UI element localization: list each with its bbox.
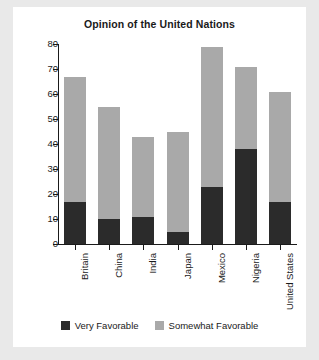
y-tick: 70 [13, 69, 58, 70]
x-tick-mark [246, 245, 247, 250]
x-tick-mark [143, 245, 144, 250]
y-tick: 40 [13, 144, 58, 145]
bar-segment-somewhat-favorable [201, 47, 223, 187]
y-tick: 80 [13, 44, 58, 45]
bar-segment-somewhat-favorable [235, 67, 257, 150]
plot-area: 01020304050607080 BritainChinaIndiaJapan… [13, 7, 306, 347]
x-label-japan: Japan [182, 253, 193, 279]
bar-mexico[interactable] [201, 44, 223, 244]
bar-segment-somewhat-favorable [167, 132, 189, 232]
bar-segment-very-favorable [64, 202, 86, 245]
y-tick-label: 20 [24, 188, 58, 199]
y-tick-label: 50 [24, 113, 58, 124]
bar-china[interactable] [98, 44, 120, 244]
bar-segment-somewhat-favorable [98, 107, 120, 220]
y-tick: 0 [13, 244, 58, 245]
x-label-india: India [147, 253, 158, 274]
legend-swatch-icon [61, 321, 70, 330]
y-tick: 10 [13, 219, 58, 220]
legend-item[interactable]: Somewhat Favorable [155, 320, 259, 331]
y-tick-label: 40 [24, 138, 58, 149]
x-tick-mark [178, 245, 179, 250]
y-tick-label: 60 [24, 88, 58, 99]
bar-segment-somewhat-favorable [64, 77, 86, 202]
bar-segment-very-favorable [269, 202, 291, 245]
legend-swatch-icon [155, 321, 164, 330]
legend-label: Very Favorable [75, 320, 139, 331]
legend-item[interactable]: Very Favorable [61, 320, 139, 331]
bar-japan[interactable] [167, 44, 189, 244]
x-label-mexico: Mexico [216, 253, 227, 283]
y-tick-label: 0 [24, 238, 58, 249]
y-tick-label: 10 [24, 213, 58, 224]
x-label-united-states: United States [284, 253, 295, 310]
x-label-china: China [113, 253, 124, 278]
chart-legend: Very FavorableSomewhat Favorable [13, 320, 306, 331]
bar-segment-very-favorable [98, 219, 120, 244]
bar-britain[interactable] [64, 44, 86, 244]
x-label-britain: Britain [79, 253, 90, 280]
chart-figure: Opinion of the United Nations 0102030405… [13, 7, 306, 347]
bar-segment-somewhat-favorable [132, 137, 154, 217]
y-tick: 30 [13, 169, 58, 170]
bar-india[interactable] [132, 44, 154, 244]
y-tick: 60 [13, 94, 58, 95]
bar-segment-very-favorable [132, 217, 154, 245]
bar-segment-very-favorable [201, 187, 223, 245]
x-tick-mark [212, 245, 213, 250]
y-tick-label: 30 [24, 163, 58, 174]
bars-layer [58, 44, 297, 244]
y-tick: 20 [13, 194, 58, 195]
bar-nigeria[interactable] [235, 44, 257, 244]
x-tick-mark [75, 245, 76, 250]
x-label-nigeria: Nigeria [250, 253, 261, 283]
y-tick-label: 70 [24, 63, 58, 74]
bar-segment-very-favorable [235, 149, 257, 244]
bar-segment-somewhat-favorable [269, 92, 291, 202]
legend-label: Somewhat Favorable [169, 320, 259, 331]
y-tick: 50 [13, 119, 58, 120]
x-tick-mark [109, 245, 110, 250]
x-tick-mark [280, 245, 281, 250]
bar-segment-very-favorable [167, 232, 189, 245]
bar-united-states[interactable] [269, 44, 291, 244]
y-tick-label: 80 [24, 38, 58, 49]
